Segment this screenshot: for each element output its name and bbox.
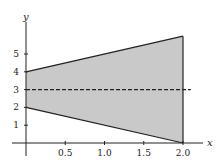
y-tick-label: 1 bbox=[13, 120, 19, 130]
y-tick-label: 4 bbox=[13, 67, 19, 77]
y-tick-label: 3 bbox=[13, 85, 19, 95]
y-axis-label: y bbox=[22, 11, 29, 22]
y-tick-label: 2 bbox=[13, 102, 19, 112]
x-ticks: 0.51.01.52.0 bbox=[58, 141, 190, 158]
x-axis-label: x bbox=[207, 137, 213, 148]
y-tick-label: 5 bbox=[13, 49, 19, 59]
x-tick-label: 1.0 bbox=[97, 148, 112, 158]
chart: x y 0.51.01.52.0 12345 bbox=[0, 0, 219, 165]
x-tick-label: 2.0 bbox=[176, 148, 191, 158]
x-tick-label: 1.5 bbox=[137, 148, 152, 158]
x-tick-label: 0.5 bbox=[58, 148, 73, 158]
